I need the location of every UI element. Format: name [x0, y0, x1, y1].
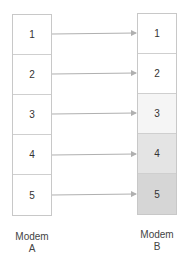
modem-a-cell-3: 3	[13, 95, 51, 135]
modem-b-cell-3: 3	[138, 94, 176, 134]
arrow-3	[52, 113, 136, 114]
modem-a-label-line1: Modem	[7, 231, 57, 243]
modem-b-cell-5: 5	[138, 174, 176, 214]
arrow-5	[52, 194, 136, 195]
arrow-2	[52, 73, 136, 74]
modem-a-cell-5: 5	[13, 175, 51, 215]
modem-b-cell-1: 1	[138, 14, 176, 54]
modem-b-cell-2: 2	[138, 54, 176, 94]
modem-b-label-line1: Modem	[132, 229, 182, 241]
modem-a-label: Modem A	[7, 231, 57, 255]
modem-a-label-line2: A	[7, 243, 57, 255]
modem-a-cell-2: 2	[13, 55, 51, 95]
arrow-1	[52, 33, 136, 34]
modem-b-stack: 1 2 3 4 5	[137, 13, 177, 215]
modem-b-cell-4: 4	[138, 134, 176, 174]
modem-b-label: Modem B	[132, 229, 182, 253]
modem-a-cell-4: 4	[13, 135, 51, 175]
modem-a-cell-1: 1	[13, 15, 51, 55]
modem-a-stack: 1 2 3 4 5	[12, 14, 52, 216]
modem-b-label-line2: B	[132, 241, 182, 253]
arrow-4	[52, 154, 136, 155]
